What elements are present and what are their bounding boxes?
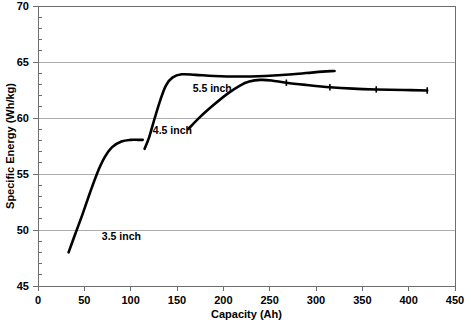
specific-energy-vs-capacity-chart: 050100150200250300350400450 455055606570…	[0, 0, 471, 326]
x-tick-label-250: 250	[260, 294, 278, 306]
series-label-3-5-inch: 3.5 inch	[102, 230, 141, 242]
x-tick-label-150: 150	[168, 294, 186, 306]
y-axis-title: Specific Energy (Wh/kg)	[4, 83, 16, 209]
chart-background	[0, 0, 471, 326]
y-tick-label-45: 45	[17, 280, 29, 292]
series-label-4-5-inch: 4.5 inch	[153, 124, 192, 136]
x-axis-title: Capacity (Ah)	[211, 308, 282, 320]
y-tick-label-55: 55	[17, 168, 29, 180]
x-tick-label-300: 300	[307, 294, 325, 306]
chart-container: 050100150200250300350400450 455055606570…	[0, 0, 471, 326]
series-label-5-5-inch: 5.5 inch	[193, 82, 232, 94]
y-tick-label-65: 65	[17, 56, 29, 68]
x-tick-label-450: 450	[446, 294, 464, 306]
x-tick-label-200: 200	[214, 294, 232, 306]
x-tick-label-350: 350	[353, 294, 371, 306]
y-tick-label-70: 70	[17, 0, 29, 12]
y-tick-label-60: 60	[17, 112, 29, 124]
x-tick-label-0: 0	[35, 294, 41, 306]
x-tick-label-400: 400	[399, 294, 417, 306]
x-tick-label-100: 100	[121, 294, 139, 306]
x-tick-label-50: 50	[78, 294, 90, 306]
y-tick-label-50: 50	[17, 224, 29, 236]
